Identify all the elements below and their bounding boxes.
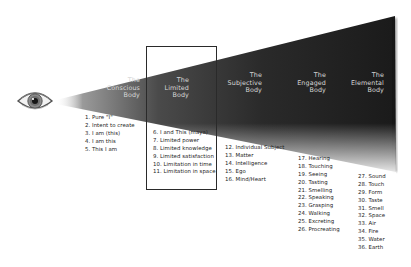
- list-item: 7. Limited power: [153, 137, 216, 145]
- list-item: 18. Touching: [298, 163, 340, 171]
- list-item: 24. Walking: [298, 210, 340, 218]
- list-item: 9. Limited satisfaction: [153, 153, 216, 161]
- list-item: 21. Smelling: [298, 187, 340, 195]
- list-item: 20. Tasting: [298, 179, 340, 187]
- list-item: 16. Mind/Heart: [225, 176, 285, 184]
- list-item: 15. Ego: [225, 168, 285, 176]
- list-item: 36. Earth: [358, 244, 386, 252]
- list-item: 34. Fire: [358, 228, 386, 236]
- list-elemental-body: 27. Sound 28. Touch 29. Form 30. Taste 3…: [358, 173, 386, 252]
- list-item: 3. I am (this): [85, 130, 135, 138]
- label-line: Body: [222, 87, 262, 95]
- list-item: 6. I and This (maya): [153, 129, 216, 137]
- label-line: Body: [346, 87, 384, 95]
- eye-icon: [16, 86, 54, 116]
- list-item: 4. I am this: [85, 138, 135, 146]
- list-item: 35. Water: [358, 236, 386, 244]
- list-item: 27. Sound: [358, 173, 386, 181]
- list-subjective-body: 12. Individual Subject 13. Matter 14. In…: [225, 144, 285, 183]
- label-line: Body: [292, 87, 326, 95]
- list-item: 5. This I am: [85, 146, 135, 154]
- list-item: 26. Procreating: [298, 226, 340, 234]
- list-item: 10. Limitation in time: [153, 161, 216, 169]
- label-conscious-body: The Conscious Body: [104, 77, 140, 100]
- list-item: 13. Matter: [225, 152, 285, 160]
- label-line: Body: [104, 92, 140, 100]
- list-item: 17. Hearing: [298, 155, 340, 163]
- list-item: 22. Speaking: [298, 194, 340, 202]
- label-engaged-body: The Engaged Body: [292, 72, 326, 95]
- list-item: 19. Seeing: [298, 171, 340, 179]
- list-item: 2. Intent to create: [85, 122, 135, 130]
- list-item: 28. Touch: [358, 181, 386, 189]
- consciousness-diagram: The Conscious Body The Limited Body The …: [0, 0, 411, 267]
- list-limited-body: 6. I and This (maya) 7. Limited power 8.…: [153, 129, 216, 176]
- label-subjective-body: The Subjective Body: [222, 72, 262, 95]
- label-elemental-body: The Elemental Body: [346, 72, 384, 95]
- list-item: 8. Limited knowledge: [153, 145, 216, 153]
- list-item: 32. Space: [358, 212, 386, 220]
- list-item: 25. Excreting: [298, 218, 340, 226]
- list-item: 1. Pure "I": [85, 114, 135, 122]
- list-conscious-body: 1. Pure "I" 2. Intent to create 3. I am …: [85, 114, 135, 153]
- list-engaged-body: 17. Hearing 18. Touching 19. Seeing 20. …: [298, 155, 340, 234]
- list-item: 33. Air: [358, 220, 386, 228]
- list-item: 14. Intelligence: [225, 160, 285, 168]
- list-item: 23. Grasping: [298, 202, 340, 210]
- list-item: 31. Smell: [358, 205, 386, 213]
- list-item: 11. Limitation in space: [153, 168, 216, 176]
- list-item: 12. Individual Subject: [225, 144, 285, 152]
- list-item: 30. Taste: [358, 197, 386, 205]
- list-item: 29. Form: [358, 189, 386, 197]
